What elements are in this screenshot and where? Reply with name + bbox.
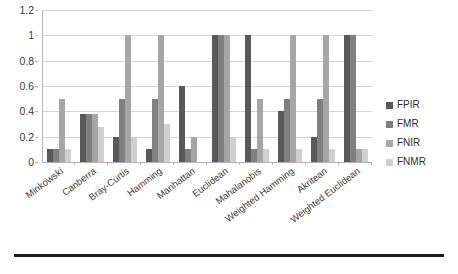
x-axis-labels: MinkowskiCanberraBray-CurtisHammingManha… — [42, 162, 372, 242]
bar-group — [108, 10, 141, 162]
bottom-divider — [14, 254, 444, 257]
plot-area — [42, 10, 372, 162]
y-tick-label: 1 — [28, 30, 34, 41]
y-tick-mark — [35, 162, 38, 163]
bar — [191, 137, 197, 162]
legend-label: FMR — [397, 119, 419, 129]
bar — [296, 149, 302, 162]
bar — [131, 137, 137, 162]
legend-swatch-icon — [386, 121, 393, 128]
legend-label: FPIR — [397, 100, 420, 110]
bar-group — [75, 10, 108, 162]
bar — [323, 35, 329, 162]
legend-item[interactable]: FNIR — [386, 138, 426, 148]
legend-swatch-icon — [386, 102, 393, 109]
bar — [350, 35, 356, 162]
y-tick-label: 0.2 — [19, 131, 34, 142]
bar-groups — [42, 10, 372, 162]
legend-swatch-icon — [386, 159, 393, 166]
y-tick-label: 0.8 — [19, 55, 34, 66]
x-axis-label: Minkowski — [24, 166, 65, 200]
y-tick-mark — [35, 35, 38, 36]
bar-group — [273, 10, 306, 162]
legend-item[interactable]: FNMR — [386, 157, 426, 167]
y-axis: 00.20.40.60.811.2 — [0, 10, 38, 162]
bar — [164, 124, 170, 162]
y-tick-label: 0 — [28, 157, 34, 168]
bar — [290, 35, 296, 162]
bar-group — [240, 10, 273, 162]
bar-group — [42, 10, 75, 162]
bar — [98, 127, 104, 162]
y-tick-mark — [35, 137, 38, 138]
bar — [65, 149, 71, 162]
chart-legend: FPIRFMRFNIRFNMR — [386, 100, 426, 167]
legend-item[interactable]: FPIR — [386, 100, 426, 110]
y-tick-mark — [35, 10, 38, 11]
bar — [329, 149, 335, 162]
bar-group — [174, 10, 207, 162]
y-tick-label: 0.4 — [19, 106, 34, 117]
y-tick-label: 1.2 — [19, 5, 34, 16]
y-tick-mark — [35, 61, 38, 62]
bar — [263, 149, 269, 162]
bar — [245, 35, 251, 162]
y-tick-label: 0.6 — [19, 81, 34, 92]
legend-item[interactable]: FMR — [386, 119, 426, 129]
bar-group — [207, 10, 240, 162]
bar — [230, 137, 236, 162]
bar-chart-figure: 00.20.40.60.811.2 MinkowskiCanberraBray-… — [0, 0, 458, 274]
y-tick-mark — [35, 111, 38, 112]
legend-label: FNIR — [397, 138, 420, 148]
bar — [362, 149, 368, 162]
legend-swatch-icon — [386, 140, 393, 147]
bar-group — [306, 10, 339, 162]
bar-group — [339, 10, 372, 162]
legend-label: FNMR — [397, 157, 426, 167]
y-tick-mark — [35, 86, 38, 87]
bar-group — [141, 10, 174, 162]
